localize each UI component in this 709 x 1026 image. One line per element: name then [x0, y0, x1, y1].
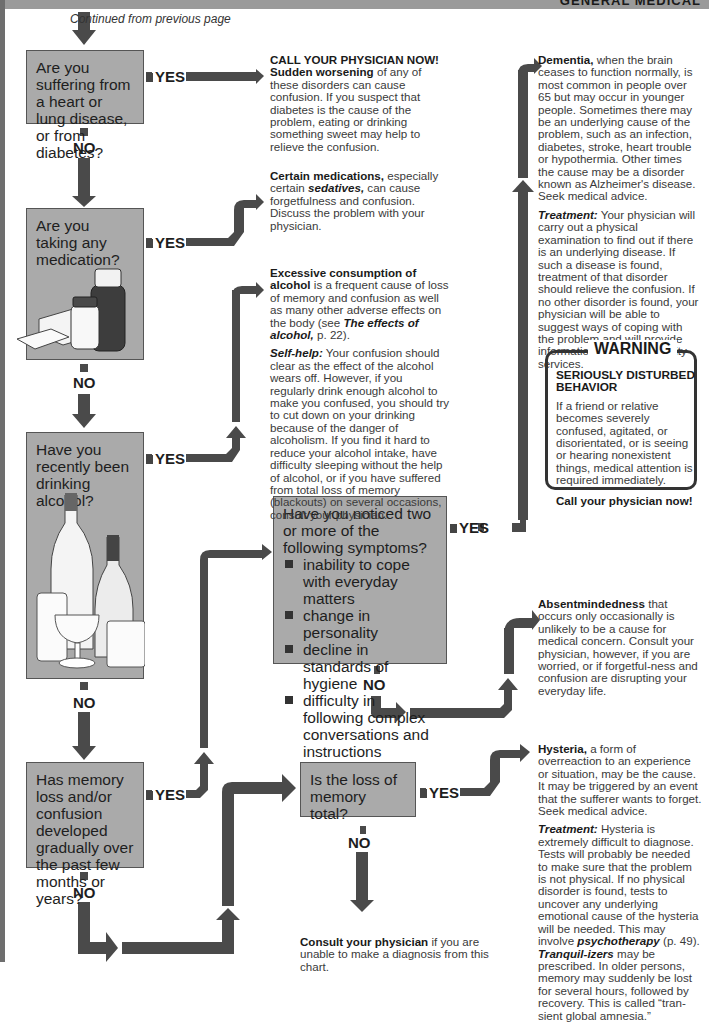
answer-dementia: Dementia, when the brain ceases to funct… [538, 54, 700, 376]
square-marker [146, 791, 153, 800]
warning-title: WARNING [588, 340, 677, 358]
yes-label-q6: YES [420, 784, 459, 801]
alcohol-bottles-illustration [35, 489, 145, 669]
answer-absentmindedness: Absentmindedness that occurs only occasi… [538, 598, 700, 697]
square-marker [146, 455, 153, 464]
no-label-q5: NO [363, 676, 386, 693]
yes-label-q1: YES [146, 68, 185, 85]
continued-from-previous-page: Continued from previous page [70, 12, 231, 26]
no-label-q3: NO [73, 694, 96, 711]
warning-call-physician: Call your physician now! [556, 495, 696, 507]
no-label-q2: NO [73, 374, 96, 391]
square-marker [146, 73, 153, 82]
square-marker [146, 239, 153, 248]
answer-alcohol: Excessive consumption of alcohol is a fr… [270, 267, 450, 527]
yes-label-q3: YES [146, 450, 185, 467]
no-label-q1: NO [73, 139, 96, 156]
question-text: Is the loss of memory total? [310, 771, 397, 822]
answer-medications: Certain medications, especially certain … [270, 170, 450, 232]
warning-text: If a friend or relative becomes severely… [556, 400, 696, 487]
medication-bottles-illustration [11, 259, 141, 355]
symptom-item: change in personality [283, 607, 438, 641]
yes-label-q4: YES [146, 786, 185, 803]
answer-call-physician: CALL YOUR PHYSICIAN NOW! Sudden worsenin… [270, 54, 450, 153]
yes-label-q2: YES [146, 234, 185, 251]
no-label-q4: NO [73, 884, 96, 901]
question-alcohol[interactable]: Have you recently been drinking alcohol? [26, 432, 144, 679]
question-total-memory-loss[interactable]: Is the loss of memory total? [300, 762, 416, 817]
question-heart-lung-diabetes[interactable]: Are you suffering from a heart or lung d… [26, 50, 144, 124]
question-gradual-memory-loss[interactable]: Has memory loss and/or confusion develop… [26, 762, 144, 868]
square-marker [450, 524, 457, 533]
no-label-q6: NO [348, 834, 371, 851]
yes-label-q5: YES [450, 519, 489, 536]
answer-consult-physician: Consult your physician if you are unable… [300, 936, 500, 973]
answer-hysteria: Hysteria, a form of overreaction to an e… [538, 743, 702, 1026]
warning-box: WARNING SERIOUSLY DISTURBED BEHAVIOR If … [545, 350, 697, 490]
symptom-item: difficulty in following complex conversa… [283, 692, 438, 760]
question-medication[interactable]: Are you taking any medication? [26, 208, 144, 360]
symptom-list: inability to cope with everyday matters … [283, 556, 438, 760]
symptom-item: inability to cope with everyday matters [283, 556, 438, 607]
symptom-item: decline in standards of hygiene [283, 641, 438, 692]
warning-heading: SERIOUSLY DISTURBED BEHAVIOR [556, 369, 696, 394]
square-marker [420, 789, 427, 798]
